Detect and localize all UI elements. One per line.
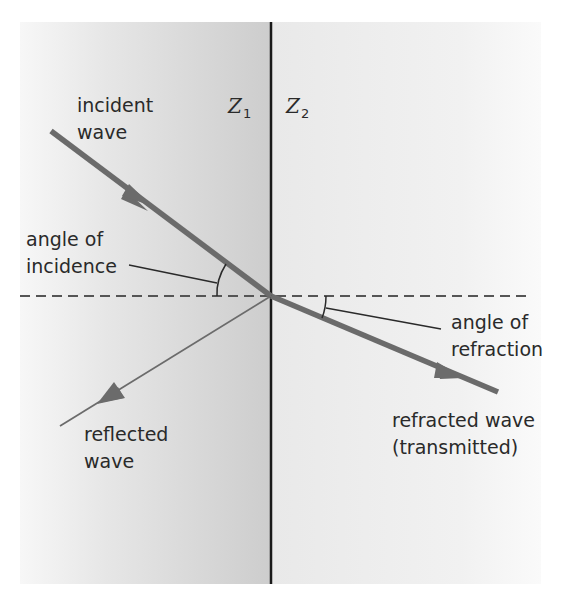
incident-wave-label-line2: wave [77, 121, 127, 143]
refracted-wave-label-line2: (transmitted) [392, 436, 518, 458]
refraction-diagram: Z1 Z2 incident wave angle of incidence a… [0, 0, 561, 605]
refraction-angle-label-line2: refraction [451, 338, 543, 360]
reflected-wave-label-line1: reflected [84, 423, 168, 445]
refraction-angle-label-line1: angle of [451, 311, 529, 333]
incidence-angle-label-line1: angle of [26, 228, 104, 250]
medium-right-background [271, 22, 541, 584]
reflected-wave-label-line2: wave [84, 450, 134, 472]
incident-wave-label-line1: incident [77, 94, 153, 116]
incidence-angle-label-line2: incidence [26, 255, 117, 277]
refracted-wave-label-line1: refracted wave [392, 409, 535, 431]
